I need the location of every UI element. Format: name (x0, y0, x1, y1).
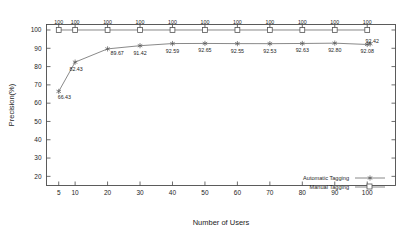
chart-background (0, 0, 419, 240)
data-point-marker (365, 28, 370, 33)
data-point-label: 89.67 (111, 50, 124, 56)
y-axis-title: Precision(%) (7, 83, 16, 126)
data-point-label: 100 (168, 19, 177, 25)
data-point-label: 100 (103, 19, 112, 25)
legend-label-automatic: Automatic Tagging (303, 175, 349, 181)
x-tick-label: 30 (136, 189, 144, 196)
data-point-label: 100 (233, 19, 242, 25)
data-point-label: 100 (136, 19, 145, 25)
data-point-marker (56, 28, 61, 33)
data-point-marker (267, 28, 272, 33)
y-tick-label: 40 (34, 136, 42, 143)
x-tick-label: 5 (57, 189, 61, 196)
x-axis-title: Number of Users (193, 218, 250, 227)
y-tick-label: 70 (34, 81, 42, 88)
data-point-label: 100 (330, 19, 339, 25)
data-point-label: 100 (363, 19, 372, 25)
data-point-marker (138, 28, 143, 33)
data-point-label: 92.63 (296, 47, 309, 53)
y-tick-label: 60 (34, 99, 42, 106)
data-point-label: 82.43 (69, 66, 82, 72)
data-point-label: 100 (71, 19, 80, 25)
data-point-marker (332, 28, 337, 33)
y-tick-label: 100 (31, 26, 42, 33)
x-tick-label: 10 (72, 189, 80, 196)
data-point-label: 92.53 (263, 48, 276, 54)
data-point-label: 92.08 (361, 48, 374, 54)
x-tick-label: 20 (104, 189, 112, 196)
data-point-label: 91.42 (133, 50, 146, 56)
data-point-marker (235, 28, 240, 33)
y-tick-label: 50 (34, 118, 42, 125)
data-point-label: 66.43 (58, 94, 71, 100)
data-point-label: 92.55 (231, 48, 244, 54)
y-tick-label: 90 (34, 45, 42, 52)
data-point-label: 92.65 (198, 47, 211, 53)
x-tick-label: 70 (266, 189, 274, 196)
data-point-label: 100 (265, 19, 274, 25)
y-tick-label: 20 (34, 173, 42, 180)
data-point-label: 92.42 (366, 38, 379, 44)
data-point-label: 100 (201, 19, 210, 25)
y-tick-label: 80 (34, 63, 42, 70)
data-point-marker (203, 28, 208, 33)
x-tick-label: 60 (234, 189, 242, 196)
x-tick-label: 80 (299, 189, 307, 196)
x-tick-label: 100 (362, 189, 373, 196)
data-point-marker (105, 28, 110, 33)
x-tick-label: 40 (169, 189, 177, 196)
data-point-marker (300, 28, 305, 33)
y-tick-label: 30 (34, 154, 42, 161)
x-tick-label: 50 (201, 189, 209, 196)
legend-marker-square-icon (367, 184, 372, 189)
data-point-label: 100 (54, 19, 63, 25)
data-point-marker (73, 28, 78, 33)
chart-canvas: 2030405060708090100 51020304050607080901… (0, 0, 419, 240)
legend-label-manual: Manual Tagging (310, 184, 349, 190)
data-point-label: 100 (298, 19, 307, 25)
data-point-label: 92.80 (328, 47, 341, 53)
data-point-marker (170, 28, 175, 33)
data-point-label: 92.59 (166, 48, 179, 54)
